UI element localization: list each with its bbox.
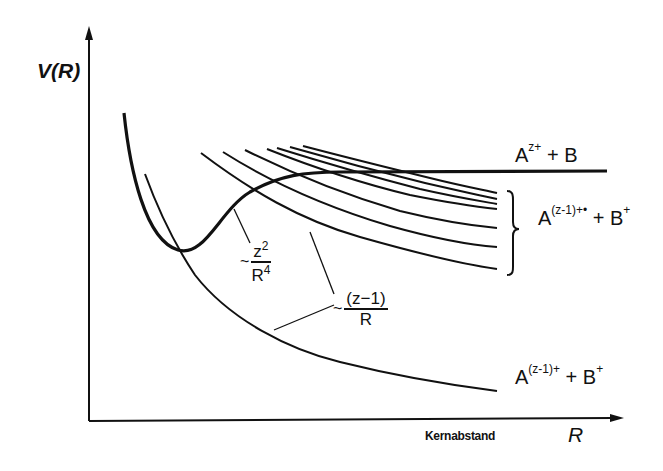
curve-excited-7	[303, 146, 497, 193]
potential-curves-figure	[0, 0, 663, 471]
leader-coulomb-upper	[310, 232, 334, 294]
fraction-denominator: R	[360, 310, 372, 328]
brace-excited-group-icon	[507, 191, 519, 275]
tilde-symbol: ~	[333, 300, 342, 318]
state-top-sup: z+	[528, 140, 541, 154]
fraction-numerator: (z−1)	[344, 290, 387, 310]
annotation-z2-over-r4: ~ z2 R4	[240, 240, 271, 283]
fraction: (z−1) R	[344, 290, 387, 328]
state-top-base: A	[515, 144, 528, 166]
annotation-z-minus-1-over-r: ~ (z−1) R	[333, 290, 388, 328]
state-mid-base: A	[538, 207, 551, 229]
fraction-denominator: R4	[251, 263, 270, 284]
state-mid-sup: (z-1)+•	[551, 203, 587, 217]
curve-excited-3	[245, 150, 497, 228]
tilde-symbol: ~	[240, 253, 249, 271]
state-mid-rest-sup: +	[623, 203, 630, 217]
state-bot-sup: (z-1)+	[528, 362, 560, 376]
x-axis-arrow-icon	[610, 414, 624, 422]
num-sup: 2	[262, 239, 269, 253]
x-axis	[89, 418, 614, 421]
fraction-numerator: z2	[251, 240, 270, 263]
y-axis-label: V(R)	[37, 60, 80, 81]
den-sup: 4	[264, 263, 271, 277]
num-text: z	[253, 242, 262, 261]
state-label-excited: A(z-1)+• + B+	[538, 208, 630, 228]
state-bot-rest: + B	[560, 366, 596, 388]
curve-ground-state-az-plus-b	[124, 113, 607, 251]
x-axis-caption: Kernabstand	[425, 430, 495, 442]
curve-excited-5	[277, 148, 497, 204]
state-label-coulomb: A(z-1)+ + B+	[515, 367, 603, 387]
state-bot-rest-sup: +	[596, 362, 603, 376]
state-label-az-plus-b: Az+ + B	[515, 145, 578, 165]
x-axis-label: R	[568, 424, 583, 445]
state-top-rest: + B	[541, 144, 577, 166]
fraction: z2 R4	[251, 240, 270, 283]
leader-polarization	[234, 209, 250, 243]
curve-coulomb-lower	[145, 174, 497, 391]
y-axis-arrow-icon	[85, 26, 93, 40]
leader-coulomb-lower	[274, 305, 334, 330]
den-text: R	[251, 265, 263, 284]
state-bot-base: A	[515, 366, 528, 388]
state-mid-rest: + B	[587, 207, 623, 229]
